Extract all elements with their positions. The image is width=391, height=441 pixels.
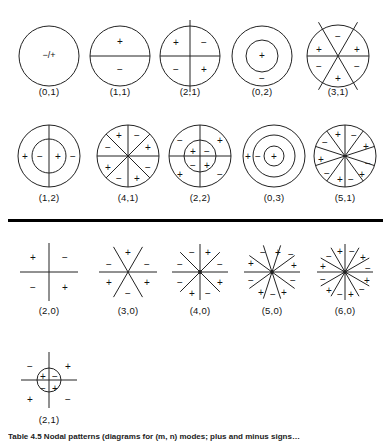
sign-glyph: + xyxy=(52,383,58,394)
sign-glyph: + xyxy=(217,277,223,288)
sign-glyph: − xyxy=(125,288,131,299)
sign-glyph: + xyxy=(134,173,140,184)
sign-glyph: + xyxy=(105,162,111,173)
sign-glyph: − xyxy=(322,137,328,148)
sign-glyph: + xyxy=(204,160,210,171)
mode-6-0-caption: (6,0) xyxy=(305,305,385,316)
sign-glyph: − xyxy=(365,158,371,169)
mode-6-0-drawing: +−−++−−++−−+ xyxy=(301,228,389,316)
sign-glyph: + xyxy=(62,282,68,293)
sign-glyph: + xyxy=(359,169,365,180)
sign-glyph: − xyxy=(177,259,183,270)
mode-5-1: +−−++−−++− xyxy=(298,109,391,203)
mode-5-0-caption: (5,0) xyxy=(232,305,312,316)
sign-glyph: − xyxy=(348,174,354,185)
sign-glyph: − xyxy=(30,282,36,293)
sign-glyph: + xyxy=(281,287,287,298)
sign-glyph: − xyxy=(326,251,332,262)
sign-glyph: + xyxy=(245,151,251,162)
sign-glyph: + xyxy=(337,246,343,257)
mode-2-0-caption: (2,0) xyxy=(9,305,89,316)
mode-2-0-figure: +−−+ xyxy=(4,227,94,317)
sign-glyph: − xyxy=(40,383,46,394)
sign-glyph: − xyxy=(217,169,223,180)
sign-glyph: + xyxy=(318,154,324,165)
sign-glyph: + xyxy=(360,252,366,263)
sign-glyph: + xyxy=(190,146,196,157)
sign-glyph: − xyxy=(260,247,266,258)
sign-glyph: + xyxy=(275,247,281,258)
sign-glyph: + xyxy=(259,50,265,61)
mode-6-0-figure: +−−++−−++−−+ xyxy=(301,228,389,316)
mode-2-1-b: −++−−++− xyxy=(5,336,93,424)
sign-glyph: + xyxy=(217,135,223,146)
sign-glyph: + xyxy=(258,287,264,298)
sign-glyph: + xyxy=(55,151,61,162)
sign-glyph: − xyxy=(270,289,276,300)
sign-glyph: + xyxy=(30,252,36,263)
centre-dot xyxy=(198,270,202,274)
sign-glyph: − xyxy=(117,64,123,75)
sign-glyph: + xyxy=(326,285,332,296)
sign-glyph: − xyxy=(349,246,355,257)
sign-glyph: + xyxy=(316,44,322,55)
sign-glyph: − xyxy=(106,259,112,270)
sign-glyph: + xyxy=(106,277,112,288)
sign-glyph: − xyxy=(70,151,76,162)
mode-3-1-caption: (3,1) xyxy=(298,86,378,97)
centre-dot xyxy=(270,270,274,274)
mode-1-2-caption: (1,2) xyxy=(9,192,89,203)
centre-dot xyxy=(343,270,347,274)
sign-glyph: − xyxy=(290,275,296,286)
sign-glyph: − xyxy=(248,275,254,286)
sign-glyph: + xyxy=(116,130,122,141)
sign-glyph: − xyxy=(217,259,223,270)
tail-caption: Table 4.5 Nodal patterns (diagrams for (… xyxy=(8,432,391,441)
sign-glyph: + xyxy=(335,129,341,140)
sign-glyph: − xyxy=(359,284,365,295)
sign-glyph: − xyxy=(37,151,43,162)
sign-glyph: − xyxy=(255,151,261,162)
sign-glyph: − xyxy=(204,146,210,157)
sign-glyph: + xyxy=(335,73,341,84)
sign-glyph: + xyxy=(27,394,33,405)
sign-glyph: − xyxy=(62,252,68,263)
sign-glyph: −/+ xyxy=(42,50,55,60)
sign-glyph: − xyxy=(189,247,195,258)
sign-glyph: − xyxy=(324,168,330,179)
sign-glyph: − xyxy=(365,263,371,274)
sign-glyph: − xyxy=(177,277,183,288)
sign-glyph: − xyxy=(351,130,357,141)
sign-glyph: − xyxy=(173,64,179,75)
mode-2-1-b-figure: −++−−++− xyxy=(5,336,93,424)
sign-glyph: − xyxy=(205,288,211,299)
sign-glyph: − xyxy=(201,37,207,48)
sign-glyph: − xyxy=(27,361,33,372)
sign-glyph: + xyxy=(125,247,131,258)
mode-2-1-b-caption: (2,1) xyxy=(9,414,89,425)
sign-glyph: + xyxy=(363,141,369,152)
sign-glyph: − xyxy=(354,61,360,72)
mode-2-1-b-drawing: −++−−++− xyxy=(5,336,93,424)
sign-glyph: − xyxy=(144,259,150,270)
sign-glyph: + xyxy=(22,151,28,162)
sign-glyph: − xyxy=(335,31,341,42)
sign-glyph: + xyxy=(40,371,46,382)
sign-glyph: + xyxy=(205,247,211,258)
mode-5-1-drawing: +−−++−−++− xyxy=(298,109,391,203)
mode-5-1-figure: +−−++−−++− xyxy=(298,109,391,203)
sign-glyph: + xyxy=(173,37,179,48)
sign-glyph: + xyxy=(320,261,326,272)
sign-glyph: − xyxy=(116,173,122,184)
mode-2-0: +−−+ xyxy=(4,227,94,317)
sign-glyph: + xyxy=(248,258,254,269)
sign-glyph: − xyxy=(320,274,326,285)
sign-glyph: − xyxy=(134,130,140,141)
sign-glyph: + xyxy=(145,142,151,153)
sign-glyph: − xyxy=(190,160,196,171)
sign-glyph: + xyxy=(364,275,370,286)
mode-5-1-caption: (5,1) xyxy=(305,192,385,203)
sign-glyph: − xyxy=(337,289,343,300)
sign-glyph: + xyxy=(291,260,297,271)
